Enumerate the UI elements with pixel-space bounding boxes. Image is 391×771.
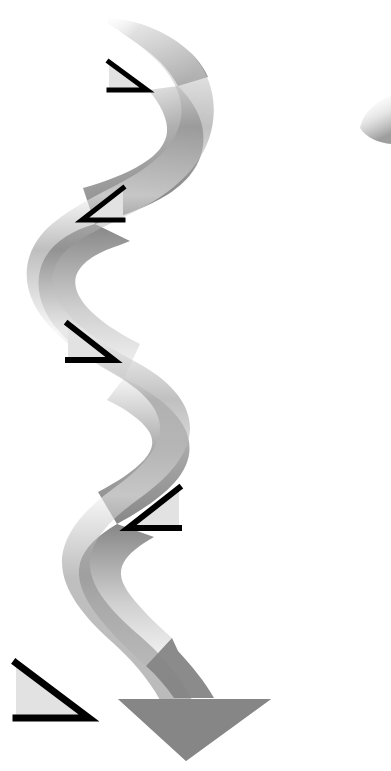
illustration-svg bbox=[0, 0, 391, 771]
illustration-canvas: Serpentine ribbon arrow with five right … bbox=[0, 0, 391, 771]
